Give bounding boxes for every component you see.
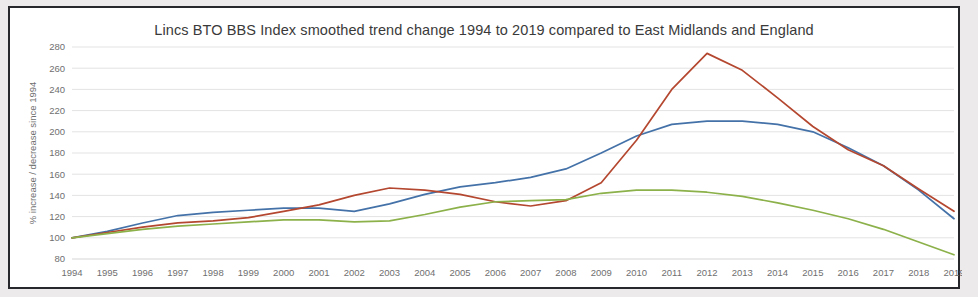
- chart-plot-area: 80100120140160180200220240260280% increa…: [10, 8, 962, 287]
- x-axis-tick-label: 2010: [626, 267, 647, 278]
- y-axis-tick-label: 240: [49, 84, 65, 95]
- y-axis-tick-label: 220: [49, 105, 65, 116]
- x-axis-tick-label: 2005: [450, 267, 471, 278]
- y-axis-tick-label: 160: [49, 169, 65, 180]
- x-axis-tick-label: 1994: [61, 267, 82, 278]
- x-axis-tick-label: 1996: [132, 267, 153, 278]
- x-axis-tick-label: 2018: [908, 267, 929, 278]
- x-axis-tick-label: 2008: [555, 267, 576, 278]
- x-axis-tick-label: 2002: [344, 267, 365, 278]
- x-axis-tick-label: 2001: [308, 267, 329, 278]
- x-axis-tick-label: 2009: [591, 267, 612, 278]
- series-line-england: [72, 190, 954, 255]
- y-axis-tick-label: 140: [49, 190, 65, 201]
- legend-label-east-midlands[interactable]: East Midlands: [504, 285, 564, 287]
- series-line-lincolnshire: [72, 121, 954, 238]
- y-axis-tick-label: 200: [49, 126, 65, 137]
- series-line-east-midlands: [72, 53, 954, 237]
- y-axis-tick-label: 280: [49, 41, 65, 52]
- y-axis-tick-label: 260: [49, 63, 65, 74]
- x-axis-tick-label: 2016: [838, 267, 859, 278]
- x-axis-tick-label: 1999: [238, 267, 259, 278]
- legend-label-england[interactable]: England: [607, 285, 642, 287]
- x-axis-tick-label: 2015: [802, 267, 823, 278]
- x-axis-tick-label: 1998: [203, 267, 224, 278]
- x-axis-tick-label: 2017: [873, 267, 894, 278]
- x-axis-tick-label: 2006: [485, 267, 506, 278]
- x-axis-tick-label: 2004: [414, 267, 435, 278]
- x-axis-tick-label: 2007: [520, 267, 541, 278]
- x-axis-tick-label: 2003: [379, 267, 400, 278]
- line-chart: 80100120140160180200220240260280% increa…: [10, 8, 962, 287]
- x-axis-tick-label: 1995: [97, 267, 118, 278]
- x-axis-tick-label: 2000: [273, 267, 294, 278]
- x-axis-tick-label: 2019: [943, 267, 962, 278]
- y-axis-tick-label: 80: [54, 253, 65, 264]
- x-axis-tick-label: 2011: [662, 267, 682, 278]
- y-axis-title: % increase / decrease since 1994: [27, 82, 38, 225]
- y-axis-tick-label: 180: [49, 147, 65, 158]
- x-axis-tick-label: 1997: [167, 267, 188, 278]
- y-axis-tick-label: 120: [49, 211, 65, 222]
- x-axis-tick-label: 2012: [696, 267, 717, 278]
- x-axis-tick-label: 2014: [767, 267, 788, 278]
- x-axis-tick-label: 2013: [732, 267, 753, 278]
- chart-frame: Lincs BTO BBS Index smoothed trend chang…: [8, 6, 960, 289]
- screenshot-root: Lincs BTO BBS Index smoothed trend chang…: [0, 0, 978, 297]
- y-axis-tick-label: 100: [49, 232, 65, 243]
- legend-label-lincolnshire[interactable]: Lincolnshire: [405, 285, 456, 287]
